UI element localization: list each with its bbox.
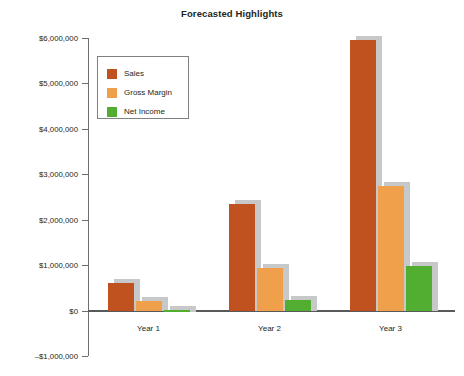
y-axis-tick [82, 311, 88, 312]
y-axis-tick-label-wrap: $0 [0, 311, 78, 320]
y-axis-tick-label: $0 [0, 306, 78, 315]
legend-swatch-net-income [107, 107, 117, 117]
legend-swatch-sales [107, 69, 117, 79]
bar-net-income-year-1[interactable] [164, 310, 190, 312]
y-axis-tick-label-wrap: –$1,000,000 [0, 356, 78, 365]
y-axis-tick [82, 220, 88, 221]
y-axis-tick-label-wrap: $3,000,000 [0, 174, 78, 183]
y-axis-tick-label: –$1,000,000 [0, 352, 78, 361]
chart-legend: Sales Gross Margin Net Income [97, 56, 189, 119]
y-axis-tick-label-wrap: $6,000,000 [0, 38, 78, 47]
legend-item-gross-margin: Gross Margin [107, 83, 188, 102]
x-axis-label-year-2: Year 2 [209, 324, 331, 333]
y-axis-tick-label-wrap: $5,000,000 [0, 83, 78, 92]
chart-container: Forecasted Highlights $6,000,000$5,000,0… [0, 0, 464, 376]
y-axis-tick-label-wrap: $4,000,000 [0, 129, 78, 138]
y-axis-tick-label: $3,000,000 [0, 170, 78, 179]
legend-label-gross-margin: Gross Margin [124, 88, 172, 97]
legend-item-sales: Sales [107, 64, 188, 83]
bar-gross-margin-year-1[interactable] [136, 301, 162, 311]
y-axis-tick-label: $6,000,000 [0, 34, 78, 43]
legend-item-net-income: Net Income [107, 102, 188, 121]
bar-net-income-year-3[interactable] [406, 266, 432, 311]
plot-area: $6,000,000$5,000,000$4,000,000$3,000,000… [0, 0, 464, 376]
y-axis-line [88, 38, 89, 356]
legend-label-net-income: Net Income [124, 107, 165, 116]
y-axis-tick-label: $4,000,000 [0, 124, 78, 133]
y-axis-tick-label: $1,000,000 [0, 261, 78, 270]
y-axis-tick [82, 356, 88, 357]
y-axis-tick-label-wrap: $2,000,000 [0, 220, 78, 229]
bar-sales-year-1[interactable] [108, 283, 134, 310]
bar-net-income-year-2[interactable] [285, 300, 311, 310]
y-axis-tick-label-wrap: $1,000,000 [0, 265, 78, 274]
y-axis-tick [82, 265, 88, 266]
y-axis-tick-label: $2,000,000 [0, 215, 78, 224]
y-axis-tick [82, 174, 88, 175]
y-axis-tick-label: $5,000,000 [0, 79, 78, 88]
legend-label-sales: Sales [124, 69, 144, 78]
bar-gross-margin-year-2[interactable] [257, 268, 283, 310]
x-axis-label-year-1: Year 1 [88, 324, 210, 333]
y-axis-tick [82, 38, 88, 39]
bar-gross-margin-year-3[interactable] [378, 186, 404, 311]
legend-swatch-gross-margin [107, 88, 117, 98]
bar-sales-year-3[interactable] [350, 40, 376, 310]
x-axis-label-year-3: Year 3 [330, 324, 452, 333]
y-axis-tick [82, 83, 88, 84]
y-axis-tick [82, 129, 88, 130]
bar-sales-year-2[interactable] [229, 204, 255, 311]
